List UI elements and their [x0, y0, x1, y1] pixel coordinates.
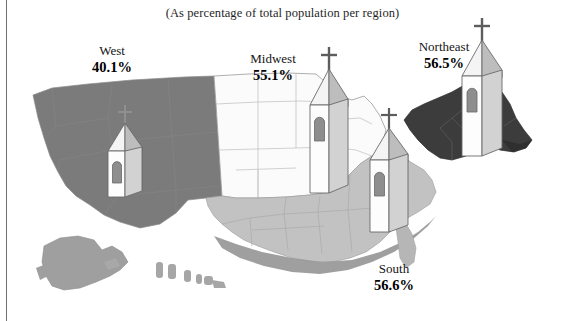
region-label-west: West 40.1% — [72, 44, 152, 75]
region-name-south: South — [354, 262, 434, 277]
region-label-south: South 56.6% — [354, 262, 434, 293]
region-value-west: 40.1% — [72, 59, 152, 75]
region-value-south: 56.6% — [354, 277, 434, 293]
region-label-midwest: Midwest 55.1% — [232, 52, 314, 83]
population-per-region-map-figure: (As percentage of total population per r… — [0, 0, 565, 321]
region-name-northeast: Northeast — [398, 40, 490, 55]
region-label-layer: West 40.1% Midwest 55.1% Northeast 56.5%… — [0, 0, 565, 321]
region-label-northeast: Northeast 56.5% — [398, 40, 490, 71]
region-value-northeast: 56.5% — [398, 55, 490, 71]
region-name-west: West — [72, 44, 152, 59]
region-name-midwest: Midwest — [232, 52, 314, 67]
region-value-midwest: 55.1% — [232, 67, 314, 83]
